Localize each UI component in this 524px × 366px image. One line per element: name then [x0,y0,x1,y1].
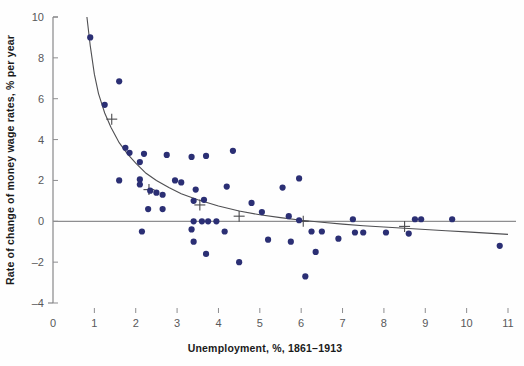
chart-background [0,0,524,366]
data-point [141,151,147,157]
data-point [201,197,207,203]
x-tick-label: 3 [174,317,180,329]
data-point [449,216,455,222]
data-point [147,188,153,194]
data-point [248,200,254,206]
y-tick-label: –4 [32,297,44,309]
data-point [205,218,211,224]
data-point [203,153,209,159]
data-point [296,175,302,181]
data-point [360,229,366,235]
x-tick-label: 1 [91,317,97,329]
data-point [213,218,219,224]
x-tick-label: 7 [339,317,345,329]
data-point [137,159,143,165]
data-point [137,181,143,187]
data-point [350,216,356,222]
data-point [193,187,199,193]
data-point [313,249,319,255]
x-tick-label: 5 [257,317,263,329]
data-point [191,218,197,224]
data-point [412,216,418,222]
data-point [279,184,285,190]
data-point [418,216,424,222]
data-point [352,229,358,235]
x-tick-label: 9 [422,317,428,329]
y-tick-label: 8 [38,52,44,64]
data-point [265,237,271,243]
x-tick-label: 4 [215,317,221,329]
data-point [224,183,230,189]
data-point [288,239,294,245]
data-point [178,179,184,185]
data-point [160,206,166,212]
data-point [296,217,302,223]
data-point [191,198,197,204]
x-tick-label: 10 [461,317,473,329]
data-point [160,192,166,198]
data-point [116,78,122,84]
data-point [230,148,236,154]
y-tick-label: –2 [32,256,44,268]
phillips-curve-chart: 01234567891011 –4–20246810 Unemployment,… [0,0,524,366]
data-point [203,251,209,257]
data-point [87,34,93,40]
data-point [497,243,503,249]
x-tick-label: 8 [381,317,387,329]
y-tick-label: 10 [32,11,44,23]
x-axis-title: Unemployment, %, 1861–1913 [188,342,343,354]
data-point [319,228,325,234]
data-point [153,190,159,196]
data-point [335,236,341,242]
data-point [383,229,389,235]
y-axis-title: Rate of change of money wage rates, % pe… [4,35,16,285]
x-tick-label: 0 [50,317,56,329]
data-point [145,206,151,212]
data-point [188,154,194,160]
data-point [102,102,108,108]
data-point [236,259,242,265]
y-tick-label: 4 [38,134,44,146]
data-point [122,145,128,151]
data-point [191,239,197,245]
x-tick-label: 2 [133,317,139,329]
data-point [222,228,228,234]
chart-canvas: 01234567891011 –4–20246810 Unemployment,… [0,0,524,366]
data-point [199,218,205,224]
data-point [116,177,122,183]
data-point [406,230,412,236]
data-point [172,177,178,183]
y-tick-label: 2 [38,174,44,186]
data-point [126,150,132,156]
x-tick-label: 11 [502,317,513,329]
data-point [302,273,308,279]
x-tick-label: 6 [298,317,304,329]
data-point [286,213,292,219]
data-point [188,226,194,232]
data-point [259,209,265,215]
y-tick-label: 6 [38,93,44,105]
y-tick-label: 0 [38,215,44,227]
data-point [308,228,314,234]
data-point [164,152,170,158]
data-point [139,228,145,234]
